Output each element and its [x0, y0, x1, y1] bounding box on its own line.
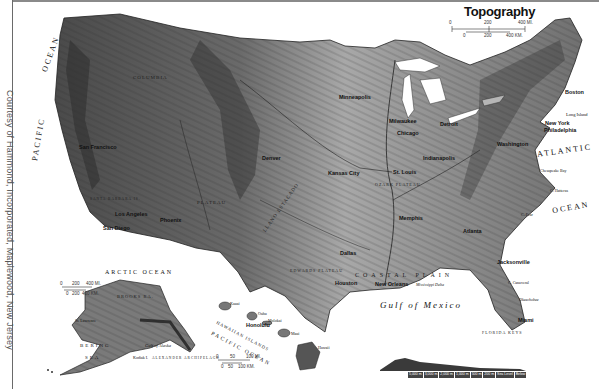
city-milwaukee: Milwaukee	[389, 118, 417, 124]
city-denver: Denver	[262, 155, 281, 161]
scale-mi-200: 200	[484, 20, 492, 25]
feature-chesapeake-bay: Chesapeake Bay	[540, 168, 567, 173]
hawaii-scale-bar	[218, 360, 250, 363]
city-indianapolis: Indianapolis	[423, 155, 455, 161]
city-washington: Washington	[497, 141, 528, 147]
ak-scale-km-400: 400 KM.	[82, 291, 99, 296]
scale-mi-0: 0	[449, 20, 452, 25]
feature-brooks-range: BROOKS RA.	[117, 294, 154, 299]
feature-kauai: Kauai	[230, 301, 240, 306]
feature-maui: Maui	[291, 331, 299, 336]
scale-km-400: 400 KM.	[506, 33, 523, 38]
feature-plateau: PLATEAU	[197, 200, 226, 205]
feature-florida-keys: FLORIDA KEYS	[482, 330, 523, 335]
legend-cell: 200 m	[483, 372, 495, 378]
feature-okeechobee: Okeechobee	[519, 297, 539, 302]
label-gulf-of-alaska: Gulf of Alaska	[145, 343, 171, 348]
alaska-scale-bar	[62, 287, 92, 290]
city-jacksonville: Jacksonville	[497, 259, 530, 265]
ak-scale-mi-400: 400 MI.	[86, 281, 101, 286]
feature-c-hatteras: C. Hatteras	[550, 188, 568, 193]
ak-scale-mi-200: 200	[72, 281, 80, 286]
legend-cell: 1,000 m	[455, 372, 470, 378]
hi-scale-km-0: 0	[221, 364, 224, 369]
scale-mi-400: 400 MI.	[518, 20, 533, 25]
city-miami: Miami	[518, 317, 534, 323]
scale-km-200: 200	[484, 33, 492, 38]
label-arctic-ocean: ARCTIC OCEAN	[105, 269, 173, 275]
feature-alexander-archipelago: ALEXANDER ARCHIPELAGO	[152, 356, 220, 360]
ak-scale-km-200: 200	[72, 291, 80, 296]
city-los-angeles: Los Angeles	[115, 211, 148, 217]
elevation-legend: 5,000 m 3,000 m 2,000 m 1,000 m 500 m 20…	[408, 360, 548, 382]
legend-cell: 500 m	[471, 372, 483, 378]
feature-columbia: COLUMBIA	[133, 75, 168, 80]
label-bering-sea: SEA	[85, 355, 100, 360]
hi-scale-km-100: 100 KM.	[238, 364, 255, 369]
city-memphis: Memphis	[399, 215, 423, 221]
city-san-francisco: San Francisco	[79, 144, 117, 150]
feature-st-lawrence: St. Lawrence	[75, 318, 96, 323]
feature-edwards-plateau: EDWARDS PLATEAU	[290, 268, 343, 273]
feature-coastal-plain: COASTAL PLAIN	[355, 272, 453, 278]
label-bering: BERING	[80, 343, 111, 348]
scale-km-0: 0	[463, 33, 466, 38]
city-honolulu: Honolulu	[246, 322, 270, 328]
city-detroit: Detroit	[440, 121, 458, 127]
legend-cell: Below	[515, 372, 527, 378]
feature-hawaii-island: Hawaii	[318, 345, 330, 350]
feature-c-fear: C. Fear	[521, 212, 533, 217]
city-chicago: Chicago	[397, 130, 419, 136]
feature-long-island: Long Island	[566, 112, 588, 117]
main-scale-bar	[452, 26, 525, 32]
city-boston: Boston	[565, 89, 584, 95]
city-kansas-city: Kansas City	[328, 170, 360, 176]
ak-scale-mi-0: 0	[60, 281, 63, 286]
legend-cell: 5,000 m	[408, 372, 423, 378]
feature-kodiak: Kodiak I.	[133, 355, 148, 360]
city-phoenix: Phoenix	[160, 217, 181, 223]
legend-cell: 3,000 m	[424, 372, 439, 378]
city-houston: Houston	[335, 280, 357, 286]
legend-cell: 2,000 m	[439, 372, 454, 378]
city-san-diego: San Diego	[103, 225, 130, 231]
feature-ozark-plateau: OZARK PLATEAU	[375, 182, 421, 187]
map-title: Topography	[464, 4, 535, 19]
feature-mississippi-delta: Mississippi Delta	[416, 282, 444, 287]
city-new-orleans: New Orleans	[375, 281, 408, 287]
hi-scale-km-50: 50	[228, 364, 233, 369]
feature-molokai: Molokai	[268, 318, 282, 323]
label-gulf-of-mexico: Gulf of Mexico	[380, 300, 462, 310]
city-st-louis: St. Louis	[393, 169, 416, 175]
ak-scale-km-0: 0	[66, 291, 69, 296]
legend-cell: Sea Level	[496, 372, 514, 378]
feature-oahu: Oahu	[258, 311, 267, 316]
city-atlanta: Atlanta	[463, 228, 482, 234]
feature-c-canaveral: C. Canaveral	[508, 280, 529, 285]
city-new-york: New York	[545, 120, 570, 126]
city-minneapolis: Minneapolis	[339, 94, 371, 100]
city-dallas: Dallas	[340, 250, 356, 256]
city-philadelphia: Philadelphia	[544, 127, 576, 133]
feature-santa-barbara: SANTA BARBARA IS.	[90, 197, 141, 201]
hi-scale-mi-50: 50	[230, 354, 235, 359]
